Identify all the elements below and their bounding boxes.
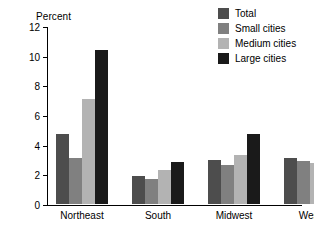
x-axis-label: West (299, 210, 314, 221)
legend-swatch-icon (218, 8, 229, 19)
legend-item[interactable]: Medium cities (218, 37, 296, 49)
bar-group (56, 26, 108, 204)
x-axis-label: Northeast (60, 210, 103, 221)
bar[interactable] (208, 160, 221, 205)
bar[interactable] (145, 179, 158, 204)
bar-group (132, 26, 184, 204)
y-tick-mark (43, 146, 47, 147)
y-tick-mark (43, 116, 47, 117)
y-axis-line (47, 27, 48, 205)
bar[interactable] (284, 158, 297, 204)
legend-label: Medium cities (235, 38, 296, 49)
x-axis-label: South (145, 210, 171, 221)
y-tick-mark (43, 27, 47, 28)
legend-label: Large cities (235, 53, 286, 64)
legend-item[interactable]: Small cities (218, 22, 296, 34)
legend-label: Total (235, 8, 256, 19)
bar[interactable] (158, 170, 171, 204)
y-tick-mark (43, 205, 47, 206)
bar[interactable] (95, 50, 108, 204)
bar[interactable] (247, 134, 260, 204)
y-tick-label: 10 (29, 51, 40, 62)
legend-swatch-icon (218, 38, 229, 49)
y-tick-label: 4 (34, 140, 40, 151)
bar[interactable] (132, 176, 145, 204)
bar[interactable] (221, 165, 234, 204)
y-tick-label: 12 (29, 22, 40, 33)
y-tick-mark (43, 175, 47, 176)
bar[interactable] (310, 163, 314, 204)
legend-item[interactable]: Large cities (218, 52, 296, 64)
x-axis-label: Midwest (216, 210, 253, 221)
legend-label: Small cities (235, 23, 286, 34)
y-axis-title: Percent (36, 11, 71, 22)
y-tick-mark (43, 57, 47, 58)
bar[interactable] (82, 99, 95, 204)
bar[interactable] (171, 162, 184, 204)
bar[interactable] (297, 161, 310, 204)
legend-item[interactable]: Total (218, 7, 296, 19)
legend-swatch-icon (218, 23, 229, 34)
y-tick-label: 6 (34, 111, 40, 122)
y-tick-mark (43, 86, 47, 87)
bar[interactable] (69, 158, 82, 204)
bar[interactable] (56, 134, 69, 204)
bar[interactable] (234, 155, 247, 204)
y-tick-label: 2 (34, 170, 40, 181)
x-axis-line (47, 205, 302, 206)
legend-swatch-icon (218, 53, 229, 64)
y-tick-label: 8 (34, 81, 40, 92)
chart-legend: TotalSmall citiesMedium citiesLarge citi… (218, 7, 296, 64)
y-tick-label: 0 (34, 200, 40, 211)
bar-chart: Percent 024681012 NortheastSouthMidwestW… (0, 0, 314, 241)
